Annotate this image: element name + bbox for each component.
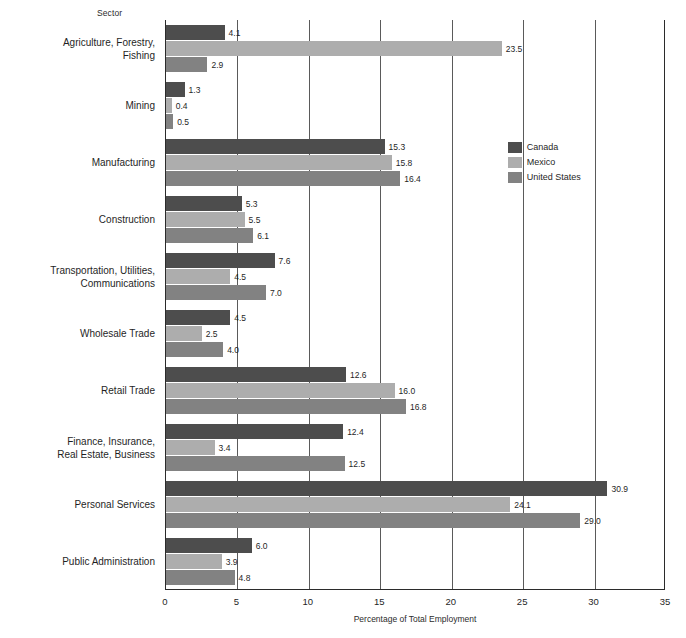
bar-value-label: 4.1 <box>229 28 241 37</box>
x-tick-15: 15 <box>374 596 385 607</box>
bar-row: 12.4 <box>166 424 664 439</box>
bar-manufacturing-canada <box>166 139 385 154</box>
bar-group: 12.43.412.5 <box>166 419 664 476</box>
bar-row: 30.9 <box>166 481 664 496</box>
bar-retail-united_states <box>166 399 406 414</box>
bar-row: 5.3 <box>166 196 664 211</box>
bar-row: 24.1 <box>166 497 664 512</box>
category-label-manufacturing: Manufacturing <box>5 156 155 169</box>
bar-group: 30.924.129.0 <box>166 476 664 533</box>
bar-row: 12.6 <box>166 367 664 382</box>
bar-row: 4.1 <box>166 25 664 40</box>
bar-value-label: 3.4 <box>219 443 231 452</box>
bar-finance-mexico <box>166 440 215 455</box>
category-label-wholesale: Wholesale Trade <box>5 327 155 340</box>
bar-row: 15.8 <box>166 155 664 170</box>
bar-group: 5.35.56.1 <box>166 191 664 248</box>
bar-value-label: 29.0 <box>584 516 601 525</box>
x-tick-25: 25 <box>517 596 528 607</box>
bar-value-label: 16.4 <box>404 174 421 183</box>
category-label-mining: Mining <box>5 99 155 112</box>
bar-row: 4.5 <box>166 269 664 284</box>
bar-finance-united_states <box>166 456 345 471</box>
bar-agriculture-united_states <box>166 57 207 72</box>
bar-value-label: 4.8 <box>239 573 251 582</box>
bar-transport-canada <box>166 253 275 268</box>
bar-mining-mexico <box>166 98 172 113</box>
bar-group: 7.64.57.0 <box>166 248 664 305</box>
bar-public-mexico <box>166 554 222 569</box>
x-tick-30: 30 <box>588 596 599 607</box>
legend-swatch-icon <box>508 157 522 168</box>
bar-agriculture-mexico <box>166 41 502 56</box>
bar-value-label: 15.8 <box>396 158 413 167</box>
x-tick-35: 35 <box>660 596 671 607</box>
bar-value-label: 23.5 <box>506 44 523 53</box>
bar-public-united_states <box>166 570 235 585</box>
bar-value-label: 6.1 <box>257 231 269 240</box>
bar-row: 4.5 <box>166 310 664 325</box>
bar-construction-canada <box>166 196 242 211</box>
bar-value-label: 16.0 <box>399 386 416 395</box>
bar-row: 16.4 <box>166 171 664 186</box>
bar-row: 6.1 <box>166 228 664 243</box>
category-label-agriculture: Agriculture, Forestry, Fishing <box>5 36 155 62</box>
y-axis-header: Sector <box>97 8 122 18</box>
bar-value-label: 16.8 <box>410 402 427 411</box>
bar-row: 3.4 <box>166 440 664 455</box>
bar-public-canada <box>166 538 252 553</box>
bar-wholesale-mexico <box>166 326 202 341</box>
bar-manufacturing-united_states <box>166 171 400 186</box>
bar-row: 29.0 <box>166 513 664 528</box>
bar-finance-canada <box>166 424 343 439</box>
bar-value-label: 15.3 <box>389 142 406 151</box>
bar-row: 0.5 <box>166 114 664 129</box>
bar-row: 4.8 <box>166 570 664 585</box>
legend-item-canada: Canada <box>508 141 581 153</box>
bar-row: 23.5 <box>166 41 664 56</box>
bar-personal-canada <box>166 481 607 496</box>
category-label-transport: Transportation, Utilities, Communication… <box>5 264 155 290</box>
category-label-personal: Personal Services <box>5 498 155 511</box>
category-label-public: Public Administration <box>5 555 155 568</box>
bar-group: 4.52.54.0 <box>166 305 664 362</box>
x-axis-title: Percentage of Total Employment <box>354 614 477 624</box>
bar-personal-mexico <box>166 497 510 512</box>
bar-group: 12.616.016.8 <box>166 362 664 419</box>
plot-area: 4.123.52.91.30.40.515.315.816.45.35.56.1… <box>165 20 665 590</box>
bar-row: 2.9 <box>166 57 664 72</box>
bar-group: 1.30.40.5 <box>166 77 664 134</box>
bar-value-label: 30.9 <box>611 484 628 493</box>
bar-value-label: 24.1 <box>514 500 531 509</box>
legend-swatch-icon <box>508 142 522 153</box>
bar-value-label: 12.4 <box>347 427 364 436</box>
bar-personal-united_states <box>166 513 580 528</box>
category-label-construction: Construction <box>5 213 155 226</box>
bar-row: 16.0 <box>166 383 664 398</box>
bar-agriculture-canada <box>166 25 225 40</box>
bar-row: 15.3 <box>166 139 664 154</box>
bar-transport-united_states <box>166 285 266 300</box>
legend-label: Mexico <box>527 157 556 168</box>
bar-value-label: 3.9 <box>226 557 238 566</box>
bar-mining-united_states <box>166 114 173 129</box>
bar-row: 1.3 <box>166 82 664 97</box>
bar-row: 3.9 <box>166 554 664 569</box>
bar-row: 6.0 <box>166 538 664 553</box>
bar-value-label: 5.5 <box>249 215 261 224</box>
legend-label: United States <box>527 172 581 183</box>
bar-group: 4.123.52.9 <box>166 20 664 77</box>
legend-item-mexico: Mexico <box>508 156 581 168</box>
bar-group: 15.315.816.4 <box>166 134 664 191</box>
bar-construction-mexico <box>166 212 245 227</box>
bar-construction-united_states <box>166 228 253 243</box>
x-tick-0: 0 <box>162 596 167 607</box>
x-tick-10: 10 <box>303 596 314 607</box>
bar-value-label: 0.5 <box>177 117 189 126</box>
bar-value-label: 12.5 <box>349 459 366 468</box>
bar-value-label: 1.3 <box>189 85 201 94</box>
bar-wholesale-canada <box>166 310 230 325</box>
bar-row: 16.8 <box>166 399 664 414</box>
bar-row: 7.6 <box>166 253 664 268</box>
bar-value-label: 4.5 <box>234 272 246 281</box>
